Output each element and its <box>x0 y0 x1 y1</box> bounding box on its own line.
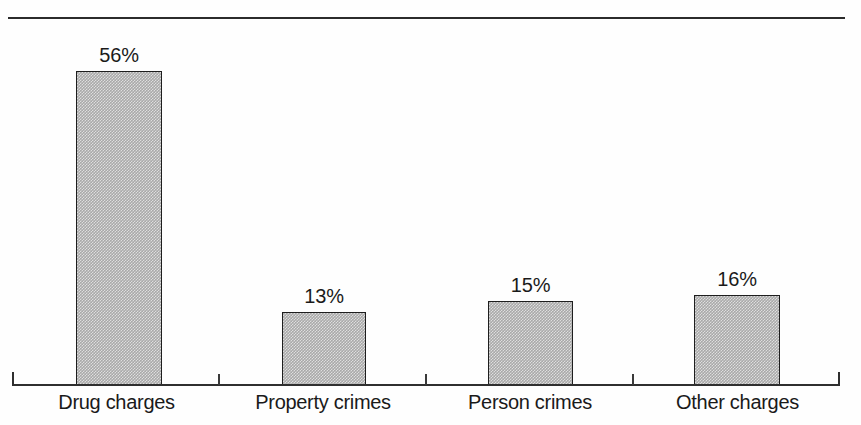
category-label-person-crimes: Person crimes <box>428 391 632 414</box>
value-label-drug-charges: 56% <box>76 44 162 67</box>
category-label-property-crimes: Property crimes <box>221 391 425 414</box>
bar-other-charges <box>694 295 780 385</box>
plot-area: 56% 13% 15% 16% Drug charges Property cr… <box>0 0 861 425</box>
x-axis-left-cap <box>12 372 14 385</box>
category-label-other-charges: Other charges <box>635 391 840 414</box>
bar-chart-figure: 56% 13% 15% 16% Drug charges Property cr… <box>0 0 861 425</box>
value-label-person-crimes: 15% <box>488 274 573 297</box>
bar-person-crimes <box>488 301 573 385</box>
x-axis-tick-1 <box>218 374 220 385</box>
x-axis-tick-2 <box>425 374 427 385</box>
bar-drug-charges <box>76 71 162 385</box>
category-label-drug-charges: Drug charges <box>15 391 218 414</box>
x-axis-right-cap <box>838 372 840 385</box>
value-label-property-crimes: 13% <box>282 285 366 308</box>
bar-property-crimes <box>282 312 366 385</box>
value-label-other-charges: 16% <box>694 268 780 291</box>
x-axis-tick-3 <box>632 374 634 385</box>
